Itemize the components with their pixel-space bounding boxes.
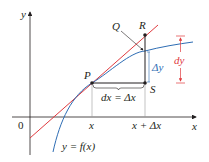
label-delta-y: Δy	[151, 61, 163, 73]
label-Q: Q	[112, 20, 120, 32]
label-S: S	[150, 83, 156, 95]
label-P: P	[83, 69, 91, 81]
dx-brace	[93, 85, 144, 90]
tick-label-x: x	[88, 119, 94, 131]
point-P	[90, 81, 94, 85]
point-S	[143, 81, 147, 85]
origin-label: 0	[18, 119, 24, 131]
point-R	[143, 33, 147, 37]
differential-diagram: y x 0 P Q R S x x + Δx dx = Δx Δy dy y =…	[0, 0, 209, 162]
y-axis-label: y	[20, 8, 26, 20]
label-dy: dy	[174, 54, 185, 66]
x-axis-label: x	[191, 120, 197, 132]
label-curve: y = f(x)	[61, 140, 95, 153]
label-dx-eq-delta-x: dx = Δx	[101, 91, 136, 103]
tick-label-x-plus-dx: x + Δx	[131, 119, 161, 131]
label-R: R	[138, 19, 146, 31]
